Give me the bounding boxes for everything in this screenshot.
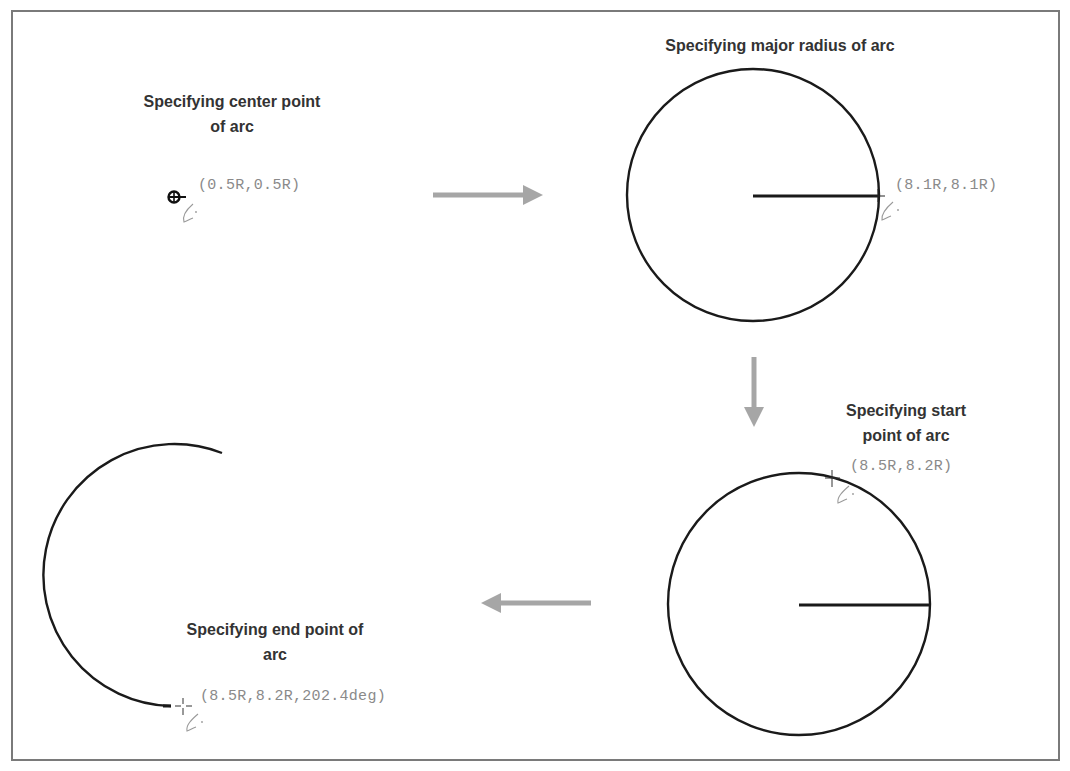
step-title-major-radius: Specifying major radius of arc — [620, 33, 940, 58]
crosshair-icon — [825, 470, 840, 487]
coordinate-readout-center-point: (0.5R,0.5R) — [198, 177, 300, 194]
step-title-end-point: Specifying end point of arc — [145, 617, 405, 667]
major-radius-circle — [627, 69, 880, 321]
step-title-center-point: Specifying center point of arc — [112, 89, 352, 139]
step-title-start-point: Specifying start point of arc — [816, 398, 996, 448]
coordinate-readout-major-radius: (8.1R,8.1R) — [895, 177, 997, 194]
start-point-circle — [668, 473, 931, 735]
center-point-marker-icon — [168, 191, 186, 203]
pen-cursor-icon — [183, 204, 196, 222]
pen-cursor-icon — [187, 714, 203, 731]
pen-cursor-icon — [838, 486, 854, 503]
crosshair-icon — [175, 698, 192, 715]
pen-cursor-icon — [882, 202, 899, 220]
coordinate-readout-start-point: (8.5R,8.2R) — [850, 458, 952, 475]
coordinate-readout-end-point: (8.5R,8.2R,202.4deg) — [200, 688, 386, 705]
